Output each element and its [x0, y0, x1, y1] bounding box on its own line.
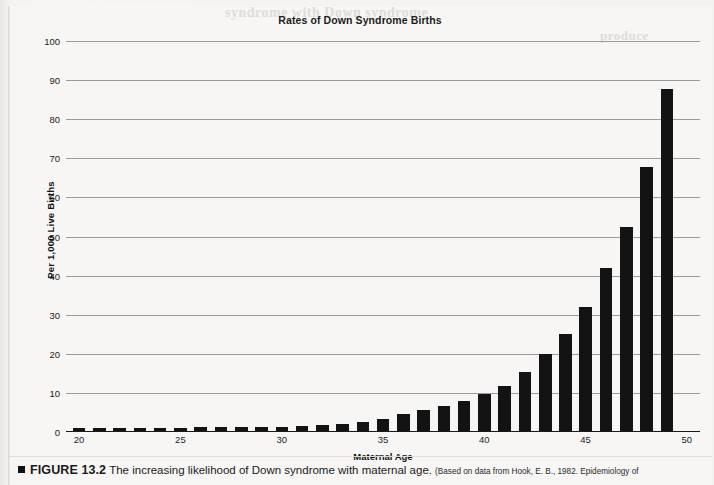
bar: [438, 406, 451, 431]
bar: [519, 372, 532, 431]
bar: [620, 227, 633, 431]
x-axis-line: [66, 431, 700, 432]
bar-slot: [555, 41, 575, 431]
bar: [336, 424, 349, 431]
y-axis-tick-label: 30: [20, 309, 60, 320]
bar: [478, 394, 491, 431]
bar: [498, 386, 511, 431]
bar-slot: [191, 41, 211, 431]
bar: [357, 422, 370, 431]
bar-slot: [535, 41, 555, 431]
bar-slot: [474, 41, 494, 431]
bar-slot: [312, 41, 332, 431]
bar-slot: [353, 41, 373, 431]
bar-slot: [332, 41, 352, 431]
bar-slot: [414, 41, 434, 431]
figure-number: FIGURE 13.2: [30, 463, 106, 477]
bar: [417, 410, 430, 432]
bar-slot: [454, 41, 474, 431]
bar-slot: [636, 41, 656, 431]
y-axis-tick-label: 50: [20, 231, 60, 242]
y-axis-tick-label: 60: [20, 192, 60, 203]
x-axis-tick-label: 40: [479, 434, 490, 445]
bar-slot: [495, 41, 515, 431]
x-axis-tick-label: 20: [74, 434, 85, 445]
x-axis-tick-label: 50: [682, 434, 693, 445]
bar-slot: [170, 41, 190, 431]
plot-area: [66, 41, 700, 432]
bar-slot: [251, 41, 271, 431]
bar: [539, 354, 552, 431]
caption-square-icon: [18, 466, 25, 473]
x-axis-tick-labels: 20253035404550: [66, 434, 700, 450]
bar-slot: [272, 41, 292, 431]
bar-slot: [434, 41, 454, 431]
bar-slot: [150, 41, 170, 431]
caption-divider: [8, 456, 712, 457]
bar: [559, 334, 572, 431]
chart-title: Rates of Down Syndrome Births: [16, 14, 704, 26]
page-background: syndrome with Down syndrome produce Rate…: [0, 0, 714, 485]
bar-slot: [677, 41, 697, 431]
x-axis-tick-label: 35: [378, 434, 389, 445]
bar-slot: [292, 41, 312, 431]
figure-caption: FIGURE 13.2 The increasing likelihood of…: [18, 463, 708, 479]
figure-caption-text: The increasing likelihood of Down syndro…: [109, 464, 432, 476]
bar: [640, 167, 653, 431]
bar-slot: [110, 41, 130, 431]
y-axis-tick-label: 10: [20, 387, 60, 398]
bar-series: [66, 41, 700, 431]
bar-slot: [657, 41, 677, 431]
y-axis-tick-label: 100: [20, 36, 60, 47]
bar: [600, 268, 613, 431]
bar-slot: [130, 41, 150, 431]
bar-slot: [576, 41, 596, 431]
y-axis-tick-label: 20: [20, 348, 60, 359]
y-axis-tick-label: 40: [20, 270, 60, 281]
bar-slot: [211, 41, 231, 431]
bar-slot: [373, 41, 393, 431]
x-axis-tick-label: 45: [580, 434, 591, 445]
chart-figure: Rates of Down Syndrome Births Per 1,000 …: [16, 8, 704, 452]
bar-slot: [515, 41, 535, 431]
bar: [661, 89, 674, 431]
bar: [377, 419, 390, 432]
x-axis-tick-label: 30: [276, 434, 287, 445]
bar-slot: [393, 41, 413, 431]
y-axis-tick-label: 0: [20, 427, 60, 438]
y-axis-tick-label: 70: [20, 153, 60, 164]
bar-slot: [69, 41, 89, 431]
bar-slot: [89, 41, 109, 431]
y-axis-tick-labels: 1009080706050403020100: [16, 41, 60, 432]
x-axis-tick-label: 25: [175, 434, 186, 445]
figure-source-text: (Based on data from Hook, E. B., 1982. E…: [435, 467, 638, 476]
bar: [579, 307, 592, 431]
y-axis-tick-label: 90: [20, 75, 60, 86]
bar-slot: [231, 41, 251, 431]
bar: [458, 401, 471, 431]
bar-slot: [616, 41, 636, 431]
bar: [397, 414, 410, 431]
y-axis-tick-label: 80: [20, 114, 60, 125]
bar-slot: [596, 41, 616, 431]
